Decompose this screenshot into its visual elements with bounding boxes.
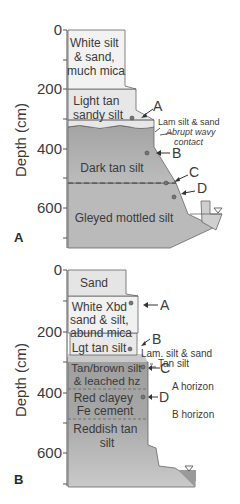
annotation-tan-silt: Tan silt	[158, 358, 189, 369]
svg-text:A: A	[160, 297, 170, 313]
pointer-a-b: A	[143, 297, 170, 313]
tick-0-b: 0	[54, 261, 62, 278]
label-sand: Sand	[80, 276, 108, 290]
sample-dot-c-b	[141, 365, 145, 369]
annotation-abrupt-wavy: Abrupt wavy	[165, 127, 216, 137]
sample-dot-c	[164, 181, 168, 185]
label-red-clayey: Red clayey Fe cement	[74, 391, 137, 418]
label-gleyed-mottled-silt: Gleyed mottled silt	[75, 211, 174, 225]
sample-dot-a-b	[129, 301, 133, 305]
svg-text:B: B	[172, 145, 181, 161]
annotation-b-horizon: B horizon	[172, 409, 214, 420]
panel-a: 0 200 400 600 Depth (cm) White silt & sa…	[12, 21, 222, 248]
svg-text:D: D	[159, 389, 169, 405]
axis-label-a: Depth (cm)	[12, 103, 29, 177]
tick-400-b: 400	[37, 384, 62, 401]
tick-600-b: 600	[37, 444, 62, 461]
tick-400: 400	[37, 140, 62, 157]
pointer-b-b: B	[141, 331, 161, 347]
pointer-c: C	[174, 164, 199, 182]
sample-dot-b-b	[128, 347, 132, 351]
tick-200-b: 200	[37, 323, 62, 340]
panel-b: 0 200 400 600 Depth (cm) Sand White Xbd …	[12, 261, 214, 487]
panel-label-b: B	[14, 472, 23, 487]
annotation-lam-silt-sand-a: Lam silt & sand	[158, 117, 220, 127]
label-light-tan: Light tan sandy silt	[73, 94, 124, 122]
label-white-xbd: White Xbd sand & silt, abund mica	[70, 300, 132, 340]
depth-axis-b: 0 200 400 600 Depth (cm)	[12, 261, 67, 486]
sample-dot-a	[130, 116, 134, 120]
pointer-d: D	[181, 180, 207, 196]
svg-text:C: C	[189, 164, 199, 180]
sample-dot-b	[145, 151, 149, 155]
pointer-d-b: D	[148, 389, 169, 405]
sample-dot-d	[172, 195, 176, 199]
annotation-contact: contact	[174, 137, 204, 147]
water-level-icon-a	[214, 208, 222, 213]
svg-text:B: B	[152, 331, 161, 347]
label-dark-tan-silt: Dark tan silt	[80, 161, 144, 175]
tick-600: 600	[37, 199, 62, 216]
label-white-silt: White silt & sand, much mica	[67, 36, 125, 78]
annotation-a-horizon: A horizon	[172, 381, 214, 392]
tick-0: 0	[54, 21, 62, 38]
pointer-a: A	[141, 98, 163, 118]
panel-label-a: A	[14, 230, 24, 245]
svg-text:A: A	[153, 98, 163, 114]
label-lgt-tan-silt: Lgt tan silt	[72, 341, 127, 355]
axis-label-b: Depth (cm)	[12, 343, 29, 417]
svg-text:D: D	[197, 180, 207, 196]
tick-200: 200	[37, 80, 62, 97]
depth-axis-a: 0 200 400 600 Depth (cm)	[12, 21, 67, 248]
sample-dot-d-b	[141, 395, 145, 399]
stratigraphic-columns-figure: 0 200 400 600 Depth (cm) White silt & sa…	[0, 0, 240, 504]
label-tan-brown-silt: Tan/brown silt & leached hz	[71, 362, 145, 387]
